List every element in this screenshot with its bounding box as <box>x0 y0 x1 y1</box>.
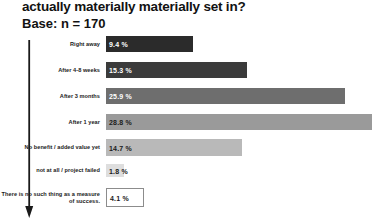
bar-row: After 1 year28.8 % <box>0 114 391 130</box>
bar-row: After 3 months25.9 % <box>0 88 391 104</box>
bar-category-label: not at all / project failed <box>0 167 106 174</box>
bar-value-label: 9.4 % <box>109 41 128 48</box>
bar-track: 28.8 % <box>106 114 391 130</box>
bar-track: 9.4 % <box>106 36 391 52</box>
bar-track: 25.9 % <box>106 88 391 104</box>
base-count-label: Base: n = 170 <box>22 16 362 31</box>
bar-value-label: 14.7 % <box>109 144 132 151</box>
bar: 14.7 % <box>106 139 242 156</box>
bar-value-label: 28.8 % <box>109 119 132 126</box>
bar: 15.3 % <box>106 62 247 78</box>
bar-track: 14.7 % <box>106 139 391 156</box>
bar-row: There is no such thing as a measure of s… <box>0 188 391 207</box>
bar: 4.1 % <box>106 188 144 207</box>
bar-category-label: Right away <box>0 41 106 48</box>
bar-value-label: 15.3 % <box>109 67 132 74</box>
bar-track: 15.3 % <box>106 62 391 78</box>
bar-track: 1.8 % <box>106 164 391 177</box>
bar-category-label: After 1 year <box>0 119 106 126</box>
bar-category-label: After 4-8 weeks <box>0 67 106 74</box>
bar-category-label: No benefit / added value yet <box>0 144 106 151</box>
bar-chart: Right away9.4 %After 4-8 weeks15.3 %Afte… <box>0 36 391 221</box>
bar-track: 4.1 % <box>106 188 391 207</box>
bar-row: After 4-8 weeks15.3 % <box>0 62 391 78</box>
bar: 28.8 % <box>106 114 372 130</box>
bar-category-label: After 3 months <box>0 93 106 100</box>
bar-row: not at all / project failed1.8 % <box>0 164 391 177</box>
bar-value-label: 4.1 % <box>110 194 129 201</box>
bar: 9.4 % <box>106 36 193 52</box>
bar-row: No benefit / added value yet14.7 % <box>0 139 391 156</box>
bar-category-label: There is no such thing as a measure of s… <box>0 191 106 205</box>
bar: 1.8 % <box>106 164 124 177</box>
page-title: actually materially materially set in? <box>22 0 362 14</box>
bar-value-label: 25.9 % <box>109 93 132 100</box>
bar-value-label: 1.8 % <box>109 167 128 174</box>
bar-row: Right away9.4 % <box>0 36 391 52</box>
bar: 25.9 % <box>106 88 345 104</box>
chart-header: actually materially materially set in? B… <box>22 0 362 31</box>
